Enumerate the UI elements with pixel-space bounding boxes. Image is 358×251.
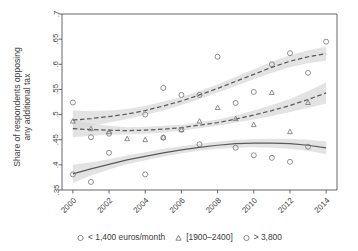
y-axis-tick-label: .7	[52, 10, 61, 17]
data-point-series-2	[215, 54, 220, 59]
y-axis-tick-label: .35	[52, 184, 61, 196]
x-axis-tick-label: 2014	[313, 196, 332, 215]
data-point-series-2	[179, 92, 184, 97]
y-axis-tick-label: .55	[52, 83, 61, 95]
x-axis-tick-label: 2008	[204, 196, 223, 215]
y-axis-tick-label: .65	[52, 33, 61, 45]
y-axis-tick-label: .45	[52, 134, 61, 146]
x-axis-tick-label: 2004	[132, 196, 151, 215]
data-point-series-1	[251, 122, 256, 127]
legend-marker-circle-open-icon	[242, 233, 251, 242]
legend-item-low-income: < 1,400 euros/month	[76, 232, 165, 242]
chart-figure: Share of respondents opposing any additi…	[0, 0, 358, 251]
plot-area: .35.4.45.5.55.6.65.720002002200420062008…	[0, 0, 358, 251]
data-point-series-0	[88, 179, 93, 184]
y-axis-tick-label: .4	[52, 161, 61, 168]
confidence-band-series-0	[73, 139, 326, 183]
legend-label-low-income: < 1,400 euros/month	[88, 232, 165, 242]
legend-marker-triangle-icon	[174, 233, 183, 242]
legend-marker-circle-icon	[76, 233, 85, 242]
data-point-series-1	[215, 105, 220, 110]
legend-label-high-income: > 3,800	[254, 232, 282, 242]
data-point-series-0	[251, 153, 256, 158]
data-point-series-1	[143, 137, 148, 142]
data-point-series-2	[161, 85, 166, 90]
chart-legend: < 1,400 euros/month [1900–2400] > 3,800	[0, 229, 358, 245]
x-axis-tick-label: 2006	[168, 196, 187, 215]
x-axis-tick-label: 2002	[95, 196, 114, 215]
data-point-series-2	[251, 89, 256, 94]
confidence-band-series-2	[73, 47, 326, 130]
y-axis-tick-label: .5	[52, 111, 61, 118]
data-point-series-2	[233, 101, 238, 106]
y-axis-tick-label: .6	[52, 60, 61, 67]
data-point-series-2	[287, 51, 292, 56]
data-point-series-2	[70, 100, 75, 105]
x-axis-tick-label: 2000	[59, 196, 78, 215]
data-point-series-0	[287, 159, 292, 164]
data-point-series-0	[269, 155, 274, 160]
data-point-series-0	[143, 172, 148, 177]
data-point-series-1	[288, 129, 293, 134]
x-axis-tick-label: 2010	[240, 196, 259, 215]
data-point-series-1	[125, 136, 130, 141]
data-point-series-0	[107, 150, 112, 155]
data-point-series-1	[269, 90, 274, 95]
data-point-series-2	[324, 39, 329, 44]
legend-label-mid-income: [1900–2400]	[186, 232, 233, 242]
x-axis-tick-label: 2012	[276, 196, 295, 215]
legend-item-mid-income: [1900–2400]	[174, 232, 233, 242]
data-point-series-2	[306, 70, 311, 75]
confidence-band-series-1	[73, 82, 326, 137]
legend-item-high-income: > 3,800	[242, 232, 282, 242]
